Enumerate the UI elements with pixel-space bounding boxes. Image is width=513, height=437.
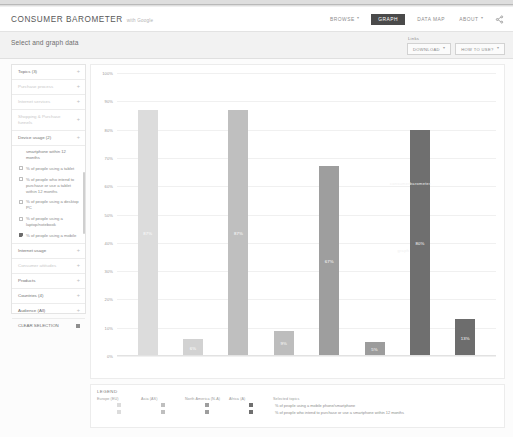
brand[interactable]: CONSUMER BAROMETER with Google	[11, 15, 153, 24]
watermark: consumerbarometer	[390, 181, 431, 186]
app-header: CONSUMER BAROMETER with Google BROWSE ▾ …	[0, 7, 513, 32]
sidebar-item-internet-usage[interactable]: Internet usage +	[12, 244, 85, 259]
option-label: % of people who intend to purchase or us…	[26, 177, 79, 195]
sidebar-item-countries[interactable]: Countries (4) +	[12, 289, 85, 304]
legend-country-europe: Europe (EU)	[97, 397, 141, 401]
trash-icon[interactable]	[76, 324, 81, 329]
legend-title: LEGEND	[97, 389, 498, 394]
legend-swatch	[161, 410, 164, 413]
plus-icon: +	[77, 278, 80, 284]
bar[interactable]: 87%	[228, 110, 248, 356]
clear-selection-button[interactable]: CLEAR SELECTION	[12, 319, 85, 333]
option-label: % of people using a laptop/notebook	[26, 216, 79, 228]
sidebar-label-purchase-process: Purchase process	[18, 84, 56, 90]
sidebar-item-products[interactable]: Products +	[12, 274, 85, 289]
nav-label-about: ABOUT	[459, 17, 478, 22]
plus-icon: +	[77, 293, 80, 299]
plus-icon: +	[77, 248, 80, 254]
y-tick-label: 80%	[105, 127, 114, 132]
plus-icon: +	[77, 308, 80, 314]
links-label: Links	[408, 36, 505, 41]
sidebar-item-topics[interactable]: Topics (3) +	[12, 65, 85, 80]
download-button[interactable]: DOWNLOAD ▾	[407, 43, 451, 55]
bar[interactable]: 6%	[183, 339, 203, 356]
links-buttons: DOWNLOAD ▾ HOW TO USE? ▾	[407, 43, 505, 55]
page-title: Select and graph data	[11, 39, 79, 46]
sidebar-scrollbar[interactable]	[83, 172, 85, 234]
plus-icon: +	[77, 99, 80, 105]
bar-value-label: 5%	[371, 346, 377, 351]
how-to-use-label: HOW TO USE?	[461, 47, 493, 52]
legend-swatch	[117, 403, 120, 406]
plus-icon: +	[77, 263, 80, 269]
bar-value-label: 6%	[190, 345, 196, 350]
legend-swatch-cell	[229, 403, 273, 406]
legend-swatch	[249, 410, 252, 413]
legend-swatch-cell	[229, 410, 273, 413]
how-to-use-button[interactable]: HOW TO USE? ▾	[455, 43, 505, 55]
legend-swatch-cell	[185, 410, 229, 413]
legend-swatch-cell	[97, 410, 141, 413]
list-item[interactable]: smartphone within 12 months	[12, 147, 85, 164]
bar-value-label: 67%	[325, 259, 334, 264]
legend-swatch	[249, 403, 252, 406]
sub-header: Select and graph data Links DOWNLOAD ▾ H…	[0, 32, 513, 59]
sidebar-item-purchase-process[interactable]: Purchase process +	[12, 80, 85, 95]
sidebar-item-device-usage[interactable]: Device usage (2) +	[12, 131, 85, 146]
legend-country-north-america: North America (N-A)	[185, 397, 229, 401]
legend-topics-header: Selected topics	[273, 397, 300, 401]
plus-icon: +	[77, 135, 80, 141]
bar[interactable]: 13%	[455, 319, 475, 356]
y-tick-label: 40%	[105, 240, 114, 245]
sidebar-item-audience[interactable]: Audience (All) +	[12, 304, 85, 319]
checkbox[interactable]	[19, 217, 23, 221]
y-tick-label: 100%	[102, 71, 113, 76]
plus-icon: +	[77, 84, 80, 90]
legend-country-asia: Asia (AS)	[141, 397, 185, 401]
y-axis-labels: 100%90%80%70%60%50%40%30%20%10%0%	[91, 73, 117, 356]
y-tick-label: 10%	[105, 325, 114, 330]
bar-value-label: 87%	[234, 230, 243, 235]
checkbox[interactable]	[19, 166, 23, 170]
legend-swatch-cell	[185, 403, 229, 406]
y-tick-label: 90%	[105, 99, 114, 104]
list-item[interactable]: % of people who intend to purchase or us…	[12, 174, 85, 197]
bar[interactable]: 67%	[319, 166, 339, 356]
app-window: CONSUMER BAROMETER with Google BROWSE ▾ …	[0, 7, 513, 437]
chevron-down-icon: ▾	[481, 17, 484, 21]
x-axis-line	[117, 355, 496, 356]
divider	[0, 4, 513, 5]
list-item[interactable]: % of people using a mobile	[12, 230, 85, 241]
checkbox[interactable]	[19, 177, 23, 181]
sidebar-label-audience: Audience (All)	[18, 308, 48, 314]
list-item[interactable]: % of people using a laptop/notebook	[12, 214, 85, 231]
option-label: % of people using a tablet	[26, 166, 74, 172]
sidebar-item-shopping-funnels[interactable]: Shopping & Purchase funnels +	[12, 110, 85, 131]
checkbox-checked[interactable]	[19, 233, 23, 237]
nav-item-browse[interactable]: BROWSE ▾	[328, 14, 361, 25]
sidebar-label-shopping-funnels: Shopping & Purchase funnels	[18, 114, 77, 126]
nav-item-about[interactable]: ABOUT ▾	[457, 14, 485, 25]
legend-header-row: Europe (EU) Asia (AS) North America (N-A…	[97, 397, 498, 401]
legend-swatch	[161, 403, 164, 406]
bar-value-label: 13%	[461, 335, 470, 340]
sidebar-item-internet-services[interactable]: Internet services +	[12, 95, 85, 110]
option-label: smartphone within 12 months	[26, 149, 79, 161]
y-tick-label: 50%	[105, 212, 114, 217]
share-icon[interactable]	[495, 15, 504, 24]
links-group: Links DOWNLOAD ▾ HOW TO USE? ▾	[407, 36, 505, 55]
nav-item-graph[interactable]: GRAPH	[371, 14, 405, 25]
bar[interactable]: 87%	[138, 110, 158, 356]
list-item[interactable]: % of people using a tablet	[12, 163, 85, 174]
sidebar-item-consumer-attitudes[interactable]: Consumer attitudes +	[12, 259, 85, 274]
bar[interactable]: 9%	[274, 331, 294, 356]
option-label: % of people using a desktop PC	[26, 199, 79, 211]
clear-selection-label: CLEAR SELECTION	[18, 323, 62, 329]
nav-label-data-map: DATA MAP	[417, 17, 445, 22]
checkbox[interactable]	[19, 200, 23, 204]
bar[interactable]: 80%	[410, 130, 430, 356]
nav-item-data-map[interactable]: DATA MAP	[415, 14, 447, 25]
bar[interactable]: 5%	[365, 342, 385, 356]
list-item[interactable]: % of people using a desktop PC	[12, 197, 85, 214]
nav-label-browse: BROWSE	[330, 17, 355, 22]
